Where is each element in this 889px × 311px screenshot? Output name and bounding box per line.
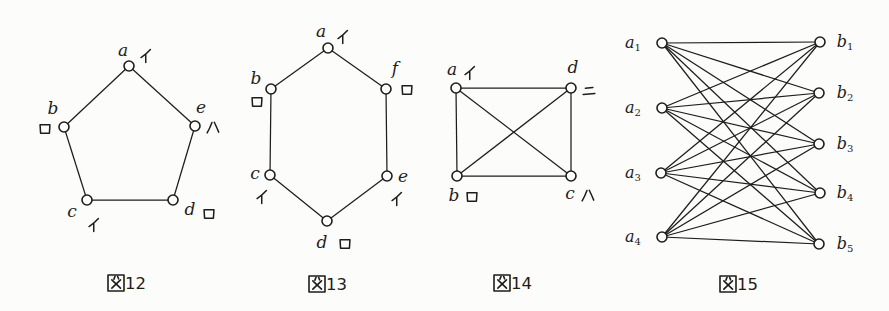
figure-caption-13: 13 [309, 275, 347, 294]
caption-kanji-zu-stroke [319, 277, 320, 280]
vertex-label-subscript: 5 [847, 243, 853, 254]
vertex-label-b: b [251, 68, 262, 88]
kana-ha-c [582, 190, 594, 201]
kana-i-a [141, 50, 150, 63]
kana-ha-e [207, 122, 219, 133]
kana-ro-d-stroke [204, 210, 214, 218]
vertex-c [566, 171, 576, 181]
edge-c-d [270, 175, 327, 221]
vertex-d [168, 195, 178, 205]
vertex-label-f: f [390, 58, 401, 78]
edge-b-c [270, 89, 271, 175]
vertex-label-d: d [185, 199, 196, 219]
vertex-f [381, 84, 391, 94]
vertex-label-subscript: 4 [847, 192, 853, 203]
vertex-label-d: d [568, 57, 579, 77]
vertex-d [566, 83, 576, 93]
figure-15: a1a2a3a4b1b2b3b4b515 [625, 32, 853, 294]
edge-a-b [271, 48, 328, 89]
vertex-e [382, 171, 392, 181]
edge-e-d [327, 176, 387, 221]
vertex-label-a2: a2 [625, 98, 641, 118]
kana-i-a [465, 67, 474, 80]
kana-i-c [257, 191, 266, 204]
caption-kanji-zu-stroke [504, 276, 505, 279]
vertex-label-b: b [48, 98, 59, 118]
vertex-label-subscript: 1 [635, 42, 641, 53]
caption-kanji-zu [720, 276, 736, 292]
vertex-label-e: e [398, 166, 408, 186]
edge-a-e [129, 66, 195, 126]
vertex-label-subscript: 2 [847, 92, 853, 103]
kana-i-c [89, 219, 98, 232]
vertex-label-a4: a4 [625, 227, 641, 247]
vertex-a [124, 61, 134, 71]
vertex-label-b5: b5 [837, 234, 854, 254]
edge-f-e [386, 89, 387, 176]
caption-number: 14 [511, 274, 532, 293]
edge-a2-b1 [662, 42, 820, 108]
edge-a1-b1 [662, 42, 820, 43]
vertex-label-a: a [447, 59, 457, 79]
vertex-a3 [656, 168, 666, 178]
textbook-figure-panel: abecd12abfced13adbc14a1a2a3a4b1b2b3b4b51… [0, 0, 889, 311]
kana-ro-b [252, 98, 262, 106]
kana-ni-d [583, 87, 595, 94]
kana-ha-e-stroke [207, 123, 212, 133]
vertex-d [322, 216, 332, 226]
vertex-c [82, 195, 92, 205]
vertex-b [452, 171, 462, 181]
vertex-b2 [814, 88, 824, 98]
edge-a2-b2 [662, 93, 819, 108]
kana-ro-b-stroke [40, 125, 50, 133]
caption-kanji-zu [494, 275, 510, 291]
caption-kanji-zu [108, 275, 124, 291]
kana-ro-f [402, 86, 412, 94]
edge-a4-b5 [662, 237, 819, 244]
caption-number: 13 [326, 275, 347, 294]
vertex-label-b: b [449, 185, 460, 205]
caption-number: 12 [125, 274, 146, 293]
edge-a3-b1 [661, 42, 820, 173]
caption-kanji-zu-stroke [114, 276, 115, 279]
caption-kanji-zu-stroke [726, 277, 727, 280]
vertex-b [59, 122, 69, 132]
kana-ni-d-stroke [583, 94, 595, 95]
vertex-label-d: d [317, 232, 328, 252]
caption-number: 15 [737, 275, 758, 294]
edge-a3-b2 [661, 93, 819, 173]
vertex-label-a3: a3 [625, 163, 641, 183]
vertex-b5 [814, 239, 824, 249]
vertex-label-subscript: 2 [635, 107, 641, 118]
caption-kanji-zu-stroke [500, 276, 501, 279]
kana-ro-b-stroke [467, 193, 477, 201]
caption-kanji-zu-stroke [118, 276, 119, 279]
vertex-a2 [657, 103, 667, 113]
vertex-label-a: a [316, 21, 326, 41]
kana-ha-c-stroke [589, 190, 593, 200]
vertex-label-b2: b2 [837, 83, 854, 103]
figure-14: adbc14 [447, 57, 595, 293]
edge-a-b [64, 66, 129, 127]
kana-ro-b [40, 125, 50, 133]
vertex-label-a1: a1 [625, 33, 641, 53]
vertex-e [190, 121, 200, 131]
vertex-label-b3: b3 [837, 134, 854, 154]
kana-ro-d [204, 210, 214, 218]
vertex-b1 [815, 37, 825, 47]
vertex-label-c: c [67, 201, 77, 221]
kana-ro-b-stroke [252, 98, 262, 106]
caption-kanji-zu-stroke [315, 277, 316, 280]
vertex-a4 [657, 232, 667, 242]
vertex-label-c: c [250, 163, 260, 183]
kana-ro-b [467, 193, 477, 201]
graph-figures-svg: abecd12abfced13adbc14a1a2a3a4b1b2b3b4b51… [0, 0, 889, 311]
vertex-label-e: e [196, 97, 206, 117]
kana-ha-c-stroke [582, 191, 587, 201]
vertex-label-b4: b4 [837, 183, 854, 203]
figure-12: abecd12 [40, 40, 219, 293]
vertex-label-subscript: 3 [847, 143, 853, 154]
figure-caption-14: 14 [494, 274, 532, 293]
caption-kanji-zu [309, 276, 325, 292]
kana-ro-d [340, 240, 350, 248]
